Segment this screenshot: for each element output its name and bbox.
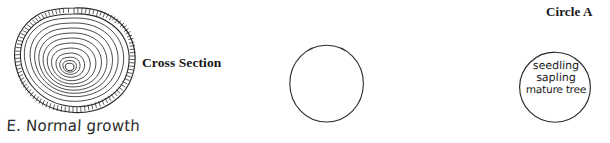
growth-ring-8	[39, 33, 107, 90]
worksheet-canvas: Cross Section E. Normal growth Circle A …	[0, 0, 610, 143]
circle-a-shape[interactable]	[290, 45, 364, 122]
circle-b-stage-list: seedling sapling mature tree	[520, 60, 592, 95]
stage-sapling: sapling	[520, 72, 592, 84]
caption-normal-growth: E. Normal growth	[6, 116, 140, 135]
circle-a-diagram[interactable]	[250, 0, 430, 143]
panel-circle-a: Circle A	[250, 0, 430, 143]
panel-cross-section: Cross Section E. Normal growth	[0, 0, 250, 143]
label-cross-section: Cross Section	[142, 55, 221, 71]
growth-ring-1-pith	[65, 63, 74, 70]
stage-mature-tree: mature tree	[520, 84, 592, 95]
growth-rings	[24, 18, 123, 101]
